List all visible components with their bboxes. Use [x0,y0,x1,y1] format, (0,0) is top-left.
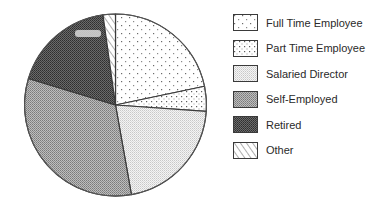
pie-chart: Full Time Employee Part Time Employee Sa… [0,0,375,206]
legend-label: Full Time Employee [266,17,363,29]
legend-swatch-fine-light-stipple [233,65,258,82]
legend: Full Time Employee Part Time Employee Sa… [233,14,373,168]
legend-item-retired: Retired [233,116,373,133]
legend-item-salaried-director: Salaried Director [233,65,373,82]
legend-item-other: Other [233,142,373,159]
legend-item-part-time-employee: Part Time Employee [233,40,373,57]
legend-label: Other [266,144,294,156]
legend-label: Retired [266,119,301,131]
pie-plot-area [0,0,230,206]
legend-swatch-sparse-dots [233,14,258,31]
legend-label: Self-Employed [266,93,338,105]
legend-label: Part Time Employee [266,42,365,54]
legend-item-full-time-employee: Full Time Employee [233,14,373,31]
legend-swatch-medium-grey-checker [233,91,258,108]
legend-swatch-dense-dots [233,40,258,57]
legend-label: Salaried Director [266,68,348,80]
legend-swatch-dark-grey-checker [233,116,258,133]
legend-item-self-employed: Self-Employed [233,91,373,108]
pie-slices [25,14,207,196]
scan-artifact [75,30,101,37]
legend-swatch-diagonal-hatch [233,142,258,159]
